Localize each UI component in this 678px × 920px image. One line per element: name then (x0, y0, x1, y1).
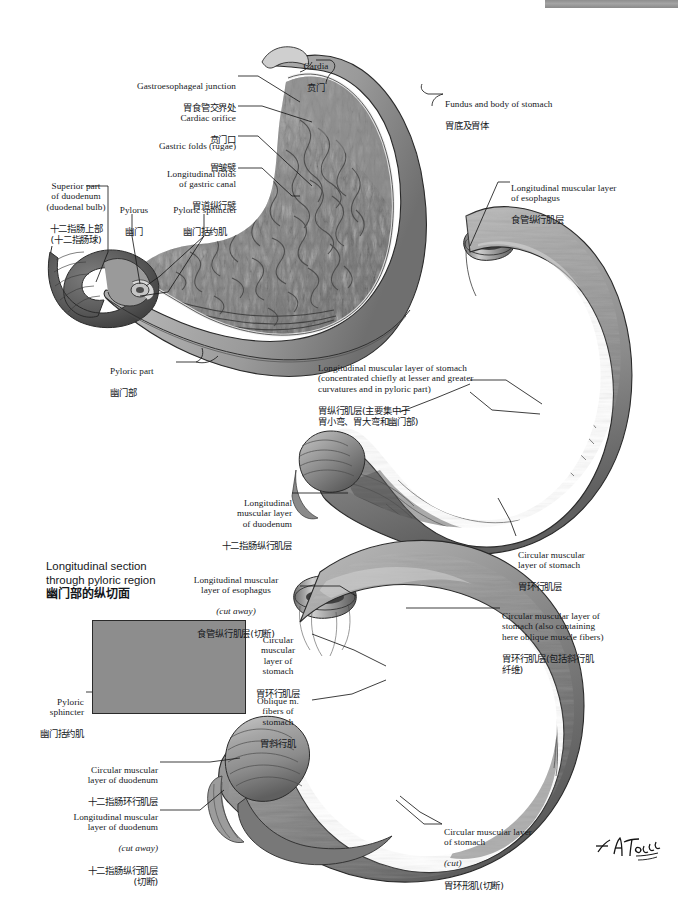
label-cn: 十二指肠纵行肌层 (切断) (24, 865, 158, 888)
label-cn: 十二指肠纵行肌层 (196, 540, 292, 551)
label-en: Cardiac orifice (150, 113, 236, 124)
label-en: Pylorus (112, 205, 156, 216)
label-circular-muscular-layer-of-stomach-oblique: Circular muscular layer of stomach (also… (502, 600, 678, 686)
label-en: Circular muscular layer of duodenum (44, 765, 158, 786)
label-en: Circular muscular layer of stomach (444, 827, 594, 848)
label-cn: 幽门括约肌 (14, 728, 84, 739)
label-cn: 胃纵行肌层(主要集中于 胃小弯、胃大弯和幽门部) (318, 405, 550, 428)
label-en-italic: (cut away) (172, 606, 300, 617)
label-oblique-m-fibers-of-stomach: Oblique m. fibers of stomach 胃斜行肌 (242, 685, 314, 760)
label-longitudinal-muscular-layer-of-duodenum: Longitudinal muscular layer of duodenum … (196, 487, 292, 562)
label-en: Circular muscular layer of stomach (242, 635, 314, 677)
label-en: Cardia (290, 61, 342, 72)
label-cn: 胃斜行肌 (242, 738, 314, 749)
label-pyloric-sphincter-inset: Pyloric sphincter 幽门括约肌 (14, 686, 84, 750)
section-title-longitudinal-section: Longitudinal section through pyloric reg… (46, 560, 186, 602)
label-en: Longitudinal muscular layer of esophagus (172, 575, 300, 596)
label-en: Gastric folds (rugae) (140, 141, 236, 152)
label-en-italic: (cut away) (24, 843, 158, 854)
label-longitudinal-muscular-layer-of-esophagus-top: Longitudinal muscular layer of esophagus… (511, 172, 671, 236)
label-pyloric-part: Pyloric part 幽门部 (110, 355, 180, 409)
label-en: Oblique m. fibers of stomach (242, 696, 314, 728)
atlas-plate-page: Longitudinal section through pyloric reg… (0, 0, 678, 920)
label-en: Superior part of duodenum (duodenal bulb… (34, 181, 118, 213)
section-title-en: Longitudinal section through pyloric reg… (46, 560, 156, 586)
label-cn: 幽门部 (110, 387, 180, 398)
label-cn: 十二指肠上部 (十二指肠球) (34, 223, 118, 246)
label-pylorus: Pylorus 幽门 (112, 194, 156, 248)
label-circular-muscular-layer-of-stomach-right: Circular muscular layer of stomach 胃环行肌层 (518, 539, 636, 603)
label-cardia: Cardia 贲门 (290, 50, 342, 104)
label-en: Longitudinal muscular layer of esophagus (511, 183, 671, 204)
label-en: Gastroesophageal junction (118, 81, 236, 92)
label-longitudinal-muscular-layer-of-stomach: Longitudinal muscular layer of stomach (… (318, 352, 550, 438)
label-en: Pyloric sphincter (14, 697, 84, 718)
label-en: Fundus and body of stomach (445, 99, 585, 110)
label-cn: 胃环行肌层 (518, 581, 636, 592)
label-cn: 胃环形肌(切断) (444, 880, 594, 891)
label-cn: 胃环行肌层(包括斜行肌 纤维) (502, 653, 678, 676)
label-cn: 幽门括约肌 (164, 226, 246, 237)
label-en: Longitudinal muscular layer of duodenum (24, 812, 158, 833)
label-circular-muscular-layer-of-stomach-cut: Circular muscular layer of stomach (cut)… (444, 816, 594, 902)
label-en: Pyloric sphincter (164, 205, 246, 216)
section-title-cn: 幽门部的纵切面 (46, 587, 186, 602)
label-cn: 胃底及胃体 (445, 120, 585, 131)
label-cn: 贲门 (290, 82, 342, 93)
label-cn: 幽门 (112, 226, 156, 237)
label-en: Longitudinal muscular layer of duodenum (196, 498, 292, 530)
artist-signature (596, 838, 660, 860)
label-en: Longitudinal muscular layer of stomach (… (318, 363, 550, 395)
label-longitudinal-muscular-layer-of-duodenum-cut: Longitudinal muscular layer of duodenum … (24, 801, 158, 898)
label-superior-part-of-duodenum: Superior part of duodenum (duodenal bulb… (34, 170, 118, 256)
label-en-italic: (cut) (444, 858, 594, 869)
label-en: Longitudinal folds of gastric canal (126, 169, 236, 190)
top-ui-strip (545, 0, 678, 8)
label-en: Circular muscular layer of stomach (also… (502, 611, 678, 643)
duodenum-bulb (48, 246, 159, 328)
label-fundus-and-body-of-stomach: Fundus and body of stomach 胃底及胃体 (445, 88, 585, 142)
label-en: Pyloric part (110, 366, 180, 377)
label-cn: 食管纵行肌层 (511, 214, 671, 225)
label-pyloric-sphincter-top: Pyloric sphincter 幽门括约肌 (164, 194, 246, 248)
label-en: Circular muscular layer of stomach (518, 550, 636, 571)
